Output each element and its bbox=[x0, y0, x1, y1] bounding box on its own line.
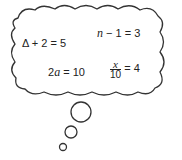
thought-circle-medium bbox=[65, 126, 77, 138]
equation-text: + 2 = 5 bbox=[29, 37, 66, 49]
thought-bubble bbox=[0, 0, 182, 160]
delta-symbol: Δ bbox=[22, 37, 29, 49]
cloud-outline bbox=[12, 6, 165, 96]
thought-circle-large bbox=[71, 102, 91, 122]
equation-a: 2a = 10 bbox=[48, 65, 85, 80]
fraction: x10 bbox=[110, 59, 121, 80]
equation-text: = 4 bbox=[121, 62, 140, 74]
thought-circle-small bbox=[60, 144, 67, 151]
equation-n: n − 1 = 3 bbox=[97, 26, 140, 41]
equation-text: − 1 = 3 bbox=[103, 27, 140, 39]
equation-text: = 10 bbox=[60, 66, 85, 78]
equation-delta: Δ + 2 = 5 bbox=[22, 37, 66, 49]
denominator: 10 bbox=[110, 70, 121, 80]
equation-x: x10 = 4 bbox=[110, 59, 140, 80]
